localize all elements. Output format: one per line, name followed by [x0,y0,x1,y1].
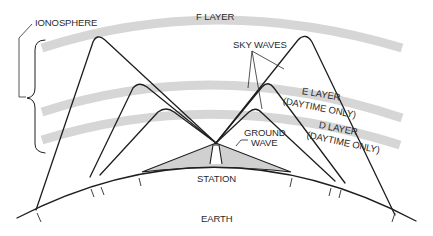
ionosphere-label: IONOSPHERE [35,18,97,28]
earth-label: EARTH [201,214,233,224]
ground-wave-pointer [236,140,248,146]
station-label: STATION [197,174,236,184]
ground-wave-label-2: WAVE [251,138,278,148]
sky-waves-label: SKY WAVES [233,40,287,50]
ionosphere-leader-line [19,24,32,97]
f-layer-label: F LAYER [196,12,234,22]
propagation-diagram [0,0,433,236]
